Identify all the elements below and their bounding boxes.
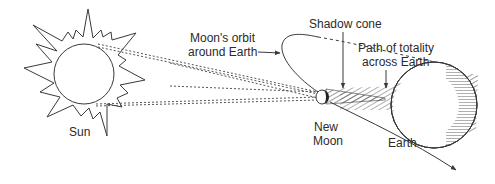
orbit-label-line2: around Earth	[188, 45, 257, 59]
sun-icon	[24, 9, 145, 136]
eclipse-diagram: Sun Moon's orbit around Earth New Moon S…	[0, 0, 495, 184]
path-of-totality-label-line1: Path of totality	[358, 41, 434, 55]
moon-orbit	[282, 34, 318, 92]
path-of-totality-label-line2: across Earth	[362, 55, 429, 69]
earth-label: Earth	[388, 136, 417, 150]
new-moon-icon	[316, 90, 329, 104]
shadow-cone-label: Shadow cone	[309, 17, 382, 31]
new-moon-label-line1: New	[314, 120, 338, 134]
orbit-label-line1: Moon's orbit	[190, 31, 256, 45]
new-moon-label-line2: Moon	[313, 134, 343, 148]
sun-label: Sun	[69, 125, 90, 139]
